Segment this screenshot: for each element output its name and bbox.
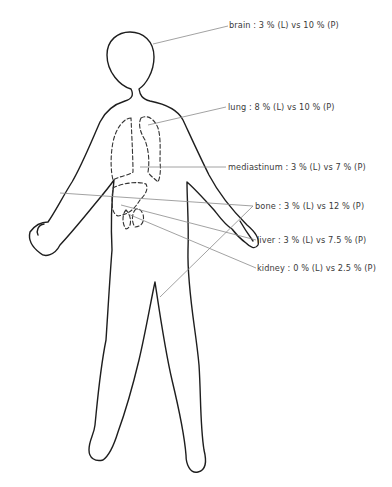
liver-label: liver : 3 % (L) vs 7.5 % (P) bbox=[257, 235, 366, 245]
bone-label: bone : 3 % (L) vs 12 % (P) bbox=[255, 201, 364, 211]
left-thumb bbox=[37, 224, 44, 235]
lung-label: lung : 8 % (L) vs 10 % (P) bbox=[228, 102, 335, 112]
left-kidney-outline bbox=[123, 210, 131, 229]
brain-leader-line bbox=[153, 26, 228, 44]
brain-label: brain : 3 % (L) vs 10 % (P) bbox=[229, 20, 339, 30]
kidney-label: kidney : 0 % (L) vs 2.5 % (P) bbox=[257, 263, 376, 273]
lung-leader-line bbox=[148, 107, 226, 125]
left-lung-outline bbox=[111, 118, 133, 180]
mediastinum-label: mediastinum : 3 % (L) vs 7 % (P) bbox=[228, 162, 366, 172]
bone-leader-line-leg bbox=[160, 206, 253, 297]
body-outline bbox=[29, 32, 258, 472]
right-lung-outline bbox=[140, 117, 161, 182]
